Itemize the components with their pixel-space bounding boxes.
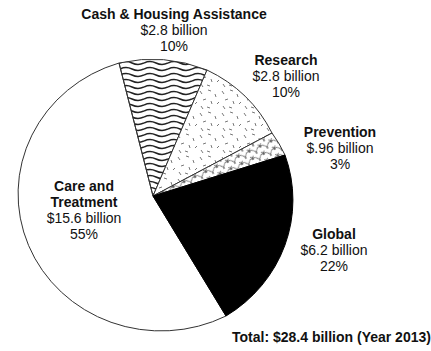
label-value: $2.8 billion bbox=[246, 68, 326, 84]
label-research: Research $2.8 billion 10% bbox=[246, 52, 326, 100]
label-cash-housing: Cash & Housing Assistance $2.8 billion 1… bbox=[64, 6, 284, 54]
label-title: Global bbox=[294, 226, 374, 242]
label-value: $6.2 billion bbox=[294, 242, 374, 258]
label-global: Global $6.2 billion 22% bbox=[294, 226, 374, 274]
label-title-line1: Care and bbox=[38, 178, 130, 194]
label-value: $2.8 billion bbox=[64, 22, 284, 38]
label-percent: 10% bbox=[246, 84, 326, 100]
label-percent: 22% bbox=[294, 258, 374, 274]
label-prevention: Prevention $.96 billion 3% bbox=[294, 124, 386, 172]
label-title: Research bbox=[246, 52, 326, 68]
total-caption: Total: $28.4 billion (Year 2013) bbox=[232, 329, 431, 345]
label-percent: 3% bbox=[294, 156, 386, 172]
label-care-and-treatment: Care and Treatment $15.6 billion 55% bbox=[38, 178, 130, 242]
label-title: Cash & Housing Assistance bbox=[64, 6, 284, 22]
label-title: Prevention bbox=[294, 124, 386, 140]
label-value: $15.6 billion bbox=[38, 210, 130, 226]
label-percent: 55% bbox=[38, 226, 130, 242]
label-title-line2: Treatment bbox=[38, 194, 130, 210]
label-value: $.96 billion bbox=[294, 140, 386, 156]
